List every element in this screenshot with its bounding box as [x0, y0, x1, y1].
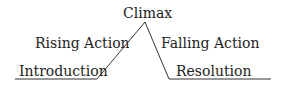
- label-falling-action: Falling Action: [161, 35, 259, 51]
- label-introduction: Introduction: [19, 63, 108, 79]
- label-rising-action: Rising Action: [35, 35, 130, 51]
- label-climax: Climax: [123, 5, 172, 21]
- label-resolution: Resolution: [176, 63, 251, 79]
- plot-diagram: Climax Rising Action Falling Action Intr…: [0, 0, 284, 85]
